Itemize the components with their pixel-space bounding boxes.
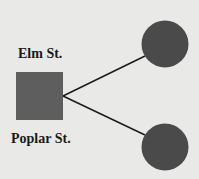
node-circle-top	[142, 21, 189, 68]
junction-square	[16, 72, 63, 120]
node-circle-bottom	[142, 124, 189, 171]
connector-line-top	[63, 56, 145, 96]
poplar-street-label: Poplar St.	[11, 132, 71, 146]
diagram-canvas: Elm St. Poplar St.	[0, 0, 199, 179]
diagram-graphic	[0, 0, 199, 179]
elm-street-label: Elm St.	[18, 47, 62, 61]
connector-line-bottom	[63, 96, 145, 135]
